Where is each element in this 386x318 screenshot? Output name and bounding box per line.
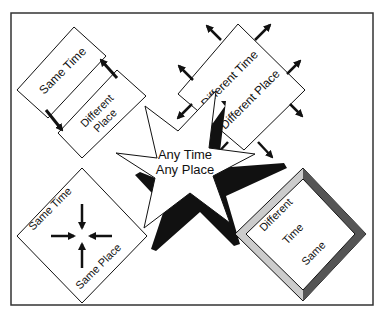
diagram-canvas: Same Time Different Place Different Time… (0, 0, 386, 318)
any-time-label: Any Time (158, 147, 212, 162)
any-place-label: Any Place (156, 162, 215, 177)
